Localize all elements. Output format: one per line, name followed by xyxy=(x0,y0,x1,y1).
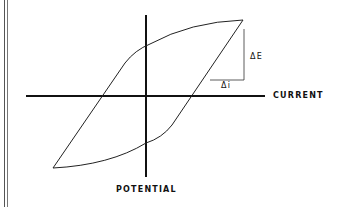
current-axis-label: CURRENT xyxy=(273,91,324,100)
loop-upper-branch xyxy=(53,20,243,168)
delta-i-label: Δi xyxy=(221,81,231,90)
potential-axis-label: POTENTIAL xyxy=(116,185,177,194)
loop-lower-branch xyxy=(53,20,243,168)
hysteresis-diagram xyxy=(0,0,341,207)
delta-e-label: ΔE xyxy=(250,52,263,61)
